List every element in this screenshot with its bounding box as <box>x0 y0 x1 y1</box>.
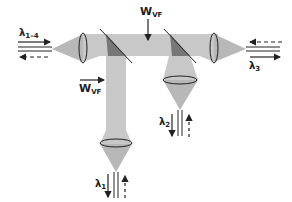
left-input-cone <box>52 34 83 62</box>
bottom-cone-1 <box>100 144 132 172</box>
vertical-beam-1 <box>106 56 126 130</box>
optical-diagram <box>0 0 292 202</box>
fiber-bottom-2 <box>178 110 182 136</box>
fiber-bottom-1 <box>114 172 118 198</box>
label-lambda-2: λ2 <box>159 117 170 130</box>
bottom-cone-2 <box>163 80 198 110</box>
label-lambda-1: λ1 <box>95 179 106 192</box>
label-wvf-left: WVF <box>79 84 101 97</box>
beam-1-taper <box>100 130 132 144</box>
label-wvf-top: WVF <box>140 7 162 20</box>
right-output-cone <box>214 34 246 62</box>
label-input-wavelengths: λ1–4 <box>19 28 39 41</box>
fiber-right <box>246 47 280 51</box>
label-lambda-3: λ3 <box>249 61 260 74</box>
fiber-left <box>18 47 52 51</box>
